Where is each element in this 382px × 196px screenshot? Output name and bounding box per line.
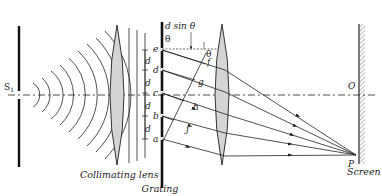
collimating-lens-caption: Collimating lens (80, 169, 159, 180)
diffracted-rays (162, 50, 356, 156)
slit-label-e: e (153, 44, 158, 54)
slit-label-a: a (153, 134, 158, 144)
plane-wavefronts (129, 28, 145, 163)
diffracted-wavefront (162, 53, 206, 143)
spacing-label-4: d (145, 124, 151, 134)
collimating-lens (110, 25, 124, 165)
slit-label-b: b (153, 111, 159, 121)
screen-hatch (360, 24, 365, 164)
foot-label-g: g (198, 77, 204, 87)
spacing-label-3: d (145, 101, 151, 111)
diffraction-grating-diagram: S1 e d c b a d d (0, 0, 382, 196)
grating-caption: Grating (142, 183, 179, 194)
path-difference-label: d sin θ (165, 21, 196, 31)
spacing-label-1: d (145, 56, 151, 66)
spacing-label-2: d (145, 78, 151, 88)
screen-center-label: O (348, 81, 356, 91)
screen-caption: Screen (347, 166, 381, 177)
source-label: S1 (4, 82, 14, 93)
slit-label-d: d (153, 65, 159, 75)
focusing-lens (215, 24, 229, 165)
theta-label-top: θ (165, 34, 170, 44)
slit-label-c: c (153, 88, 158, 98)
